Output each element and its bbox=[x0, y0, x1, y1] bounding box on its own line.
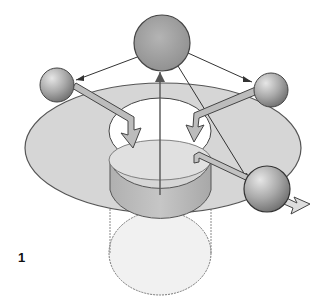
sphere-top-large bbox=[134, 15, 190, 71]
figure-label: 1 bbox=[18, 250, 25, 265]
sphere-right bbox=[254, 73, 288, 107]
sphere-bottom-right bbox=[244, 166, 290, 212]
diagram bbox=[0, 0, 326, 300]
sphere-left bbox=[40, 68, 74, 102]
